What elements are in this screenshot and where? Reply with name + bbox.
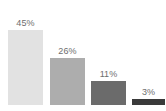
bar-value-label: 11% [100, 69, 118, 79]
bar-value-label: 26% [58, 46, 76, 56]
bar-rect[interactable] [50, 58, 85, 105]
bar-rect[interactable] [91, 81, 126, 105]
bar-item[interactable]: 11% [91, 67, 126, 105]
bar-value-label: 3% [142, 87, 155, 97]
bar-chart: 45% 26% 11% 3% [0, 0, 166, 111]
bar-rect[interactable] [132, 99, 165, 105]
bar-item[interactable]: 45% [8, 16, 43, 105]
bar-rect[interactable] [8, 30, 43, 105]
bar-item[interactable]: 26% [50, 44, 85, 105]
bar-value-label: 45% [16, 18, 34, 28]
chart-plot-area: 45% 26% 11% 3% [0, 0, 166, 111]
bar-item[interactable]: 3% [132, 85, 165, 105]
